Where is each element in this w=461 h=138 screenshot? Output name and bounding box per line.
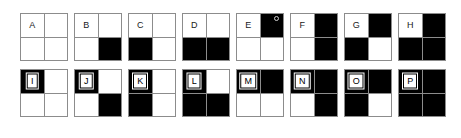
tile-m[interactable]: M [236,69,284,117]
quadrant-bottom-right [423,94,446,117]
tile-o[interactable]: O [344,69,392,117]
quadrant-bottom-left [183,94,206,117]
quadrant-bottom-left [21,94,44,117]
quadrant-bottom-left [21,38,44,61]
tile-e[interactable]: E [236,13,284,61]
tile-h[interactable]: H [398,13,446,61]
quadrant-bottom-left [237,94,260,117]
quadrant-bottom-right [315,38,338,61]
quadrant-bottom-right [261,94,284,117]
quadrant-bottom-right [99,38,122,61]
quadrant-top-left: J [75,70,98,93]
quadrant-bottom-right [99,94,122,117]
tile-f[interactable]: F [290,13,338,61]
quadrant-top-right [153,14,176,37]
quadrant-top-left: F [291,14,314,37]
tile-label: I [27,74,38,89]
tile-label: J [80,74,93,89]
tile-c[interactable]: C [128,13,176,61]
quadrant-bottom-left [75,38,98,61]
quadrant-top-right [423,14,446,37]
tile-label: F [300,21,306,30]
quadrant-bottom-left [345,94,368,117]
tile-n[interactable]: N [290,69,338,117]
quadrant-top-left: A [21,14,44,37]
quadrant-bottom-right [423,38,446,61]
quadrant-top-right [315,14,338,37]
tile-g[interactable]: G [344,13,392,61]
quadrant-top-right [369,14,392,37]
quadrant-top-left: D [183,14,206,37]
quadrant-bottom-right [207,38,230,61]
tile-label: B [83,21,89,30]
tile-label: O [349,74,364,89]
tile-row: IJKLMNOP [20,69,446,117]
tile-label: G [353,21,360,30]
tile-b[interactable]: B [74,13,122,61]
quadrant-top-left: O [345,70,368,93]
quadrant-top-right [207,14,230,37]
quadrant-bottom-left [237,38,260,61]
tile-a[interactable]: A [20,13,68,61]
quadrant-top-left: B [75,14,98,37]
quadrant-bottom-left [75,94,98,117]
quadrant-bottom-left [399,94,422,117]
quadrant-bottom-right [369,38,392,61]
tile-label: L [188,74,201,89]
quadrant-top-left: K [129,70,152,93]
quadrant-top-right [45,14,68,37]
tile-k[interactable]: K [128,69,176,117]
quadrant-top-left: M [237,70,260,93]
tile-i[interactable]: I [20,69,68,117]
quadrant-bottom-right [153,38,176,61]
quadrant-top-right [153,70,176,93]
quadrant-top-left: E [237,14,260,37]
tile-label: M [241,74,257,89]
quadrant-top-left: H [399,14,422,37]
tile-row: ABCDEFGH [20,13,446,61]
quadrant-top-right [261,14,284,37]
quadrant-bottom-left [291,94,314,117]
quadrant-top-left: N [291,70,314,93]
quadrant-bottom-left [183,38,206,61]
quadrant-bottom-right [45,38,68,61]
tile-legend-figure: ABCDEFGH IJKLMNOP [0,0,461,138]
quadrant-top-left: I [21,70,44,93]
quadrant-bottom-left [345,38,368,61]
quadrant-top-left: G [345,14,368,37]
quadrant-top-right [207,70,230,93]
tile-label: A [29,21,35,30]
quadrant-top-right [99,14,122,37]
quadrant-top-left: P [399,70,422,93]
tile-label: K [133,74,147,89]
quadrant-top-right [315,70,338,93]
quadrant-bottom-left [399,38,422,61]
tile-label: P [403,74,417,89]
quadrant-top-left: L [183,70,206,93]
quadrant-top-right [423,70,446,93]
tile-p[interactable]: P [398,69,446,117]
tile-label: E [245,21,251,30]
quadrant-bottom-right [261,38,284,61]
quadrant-top-right [99,70,122,93]
quadrant-bottom-right [207,94,230,117]
quadrant-bottom-right [315,94,338,117]
speck-icon [274,16,279,21]
quadrant-bottom-left [129,94,152,117]
quadrant-top-left: C [129,14,152,37]
tile-label: D [191,21,198,30]
quadrant-bottom-right [153,94,176,117]
quadrant-top-right [45,70,68,93]
quadrant-bottom-left [129,38,152,61]
tile-label: N [295,74,310,89]
quadrant-top-right [261,70,284,93]
tile-d[interactable]: D [182,13,230,61]
tile-label: H [407,21,414,30]
tile-label: C [137,21,144,30]
tile-j[interactable]: J [74,69,122,117]
quadrant-bottom-left [291,38,314,61]
quadrant-bottom-right [45,94,68,117]
quadrant-bottom-right [369,94,392,117]
quadrant-top-right [369,70,392,93]
tile-l[interactable]: L [182,69,230,117]
